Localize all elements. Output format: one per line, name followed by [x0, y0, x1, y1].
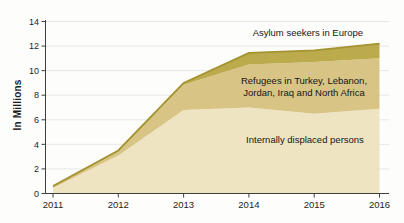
y-tick-label: 10 — [29, 66, 39, 76]
annotation-asylum-seekers: Asylum seekers in Europe — [199, 27, 363, 39]
area-band-0 — [53, 108, 380, 194]
annotation-refugees: Refugees in Turkey, Lebanon, Jordan, Ira… — [228, 75, 380, 99]
x-tick-label: 2016 — [369, 199, 390, 210]
y-tick-label: 4 — [34, 140, 39, 150]
x-tick-label: 2014 — [238, 199, 259, 210]
x-tick-label: 2011 — [43, 199, 63, 210]
annotation-internally-displaced: Internally displaced persons — [230, 134, 380, 146]
y-tick-label: 2 — [34, 164, 39, 174]
y-axis-title: In Millions — [12, 79, 23, 130]
y-tick-label: 0 — [34, 189, 39, 199]
x-tick-label: 2015 — [304, 199, 325, 210]
annotation-refugees-line1: Refugees in Turkey, Lebanon, — [241, 75, 367, 86]
y-tick-label: 12 — [29, 41, 39, 51]
annotation-refugees-line2: Jordan, Iraq and North Africa — [243, 87, 364, 98]
x-tick-label: 2013 — [173, 199, 194, 210]
y-tick-label: 6 — [34, 115, 39, 125]
stacked-area-chart: 02468101214201120122013201420152016 In M… — [0, 0, 404, 223]
y-tick-label: 14 — [29, 17, 39, 27]
y-tick-label: 8 — [34, 90, 39, 100]
x-tick-label: 2012 — [108, 199, 129, 210]
